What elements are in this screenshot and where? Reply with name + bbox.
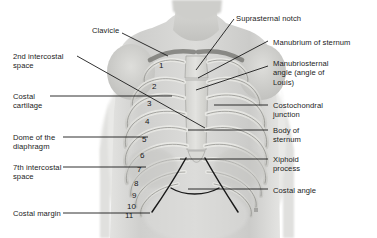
rib-number-6: 6: [140, 152, 144, 160]
sternum-body: [185, 80, 208, 150]
label-seventh-intercostal-space: 7th intercostal space: [13, 163, 61, 182]
rib-number-3: 3: [147, 100, 151, 108]
label-dome-of-the-diaphragm: Dome of the diaphragm: [13, 133, 55, 152]
rib-number-7: 7: [137, 166, 141, 174]
label-clavicle: Clavicle: [92, 26, 119, 35]
label-costal-margin: Costal margin: [13, 209, 61, 218]
rib-number-5: 5: [142, 136, 146, 144]
label-xiphoid-process: Xiphoid process: [273, 155, 300, 174]
label-manubrium-of-sternum: Manubrium of sternum: [273, 38, 351, 47]
rib-number-2: 2: [152, 83, 156, 91]
rib-number-1: 1: [159, 62, 163, 70]
rib-number-11: 11: [125, 212, 133, 220]
label-manubriosternal-angle: Manubriosternal angle (angle of Louis): [273, 59, 329, 87]
label-second-intercostal-space: 2nd intercostal space: [13, 52, 64, 71]
anatomy-figure: Clavicle2nd intercostal spaceCostal cart…: [0, 0, 377, 238]
rib-number-10: 10: [127, 203, 136, 211]
label-costal-angle: Costal angle: [273, 186, 316, 195]
label-suprasternal-notch: Suprasternal notch: [236, 14, 301, 23]
label-costal-cartilage: Costal cartilage: [13, 92, 42, 111]
label-costochondral-junction: Costochondral junction: [273, 101, 323, 120]
rib-number-8: 8: [134, 180, 138, 188]
label-body-of-sternum: Body of sternum: [273, 126, 301, 145]
image-artifact-mark: [254, 208, 258, 212]
rib-number-4: 4: [145, 118, 149, 126]
rib-number-9: 9: [132, 192, 136, 200]
